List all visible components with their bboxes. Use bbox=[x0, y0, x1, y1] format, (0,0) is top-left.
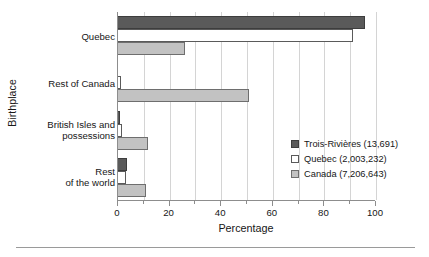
y-axis-tick-label-line: Rest bbox=[18, 166, 115, 177]
x-axis-minor-tick bbox=[194, 201, 195, 204]
x-axis-major-tick bbox=[117, 201, 118, 206]
bar bbox=[118, 171, 126, 184]
legend-item-label: Quebec (2,003,232) bbox=[304, 154, 387, 164]
x-axis-major-tick bbox=[375, 201, 376, 206]
bar bbox=[118, 158, 127, 171]
x-axis-minor-tick bbox=[246, 201, 247, 204]
x-axis-major-tick bbox=[169, 201, 170, 206]
legend-item[interactable]: Trois-Rivières (13,691) bbox=[291, 137, 411, 150]
bar bbox=[118, 124, 122, 137]
x-axis-major-tick bbox=[323, 201, 324, 206]
x-axis-title: Percentage bbox=[117, 222, 375, 234]
bar bbox=[118, 16, 365, 29]
x-axis-major-tick bbox=[220, 201, 221, 206]
legend-item[interactable]: Canada (7,206,643) bbox=[291, 167, 411, 180]
bar bbox=[118, 63, 119, 76]
y-axis-tick-label: British Isles andpossessions bbox=[18, 119, 115, 141]
y-axis-tick-label: Quebec bbox=[18, 30, 115, 41]
bar bbox=[118, 89, 249, 102]
legend-swatch-icon bbox=[291, 155, 299, 163]
x-axis-minor-tick bbox=[298, 201, 299, 204]
legend-swatch-icon bbox=[291, 170, 299, 178]
x-axis-minor-tick bbox=[143, 201, 144, 204]
bar bbox=[118, 111, 120, 124]
footer-divider bbox=[16, 247, 415, 248]
bar bbox=[118, 184, 146, 197]
legend-item-label: Canada (7,206,643) bbox=[304, 169, 387, 179]
bar bbox=[118, 29, 353, 42]
x-axis-tick-label: 20 bbox=[163, 207, 174, 218]
y-axis-tick-label-line: Rest of Canada bbox=[18, 77, 115, 88]
bar-chart-figure: Birthplace QuebecRest of CanadaBritish I… bbox=[0, 0, 429, 257]
bar bbox=[118, 42, 185, 55]
bar bbox=[118, 137, 148, 150]
y-axis-tick-label: Rest of Canada bbox=[18, 77, 115, 88]
y-axis-tick-label-line: possessions bbox=[18, 130, 115, 141]
bar bbox=[118, 76, 121, 89]
legend-item[interactable]: Quebec (2,003,232) bbox=[291, 152, 411, 165]
x-axis-tick-label: 80 bbox=[318, 207, 329, 218]
x-axis-minor-tick bbox=[349, 201, 350, 204]
y-axis-tick-label: Restof the world bbox=[18, 166, 115, 188]
x-axis-tick-label: 0 bbox=[114, 207, 119, 218]
x-axis-major-tick bbox=[272, 201, 273, 206]
chart-legend: Trois-Rivières (13,691)Quebec (2,003,232… bbox=[291, 137, 411, 182]
y-axis-tick-label-line: of the world bbox=[18, 177, 115, 188]
legend-swatch-icon bbox=[291, 140, 299, 148]
y-axis-title-label: Birthplace bbox=[6, 79, 18, 127]
x-axis-tick-label: 40 bbox=[215, 207, 226, 218]
y-axis-category-labels: QuebecRest of CanadaBritish Isles andpos… bbox=[18, 12, 115, 201]
x-axis-tick-label: 60 bbox=[266, 207, 277, 218]
legend-item-label: Trois-Rivières (13,691) bbox=[304, 139, 398, 149]
y-axis-tick-label-line: British Isles and bbox=[18, 119, 115, 130]
x-axis-tick-label: 100 bbox=[367, 207, 383, 218]
y-axis-tick-label-line: Quebec bbox=[18, 30, 115, 41]
